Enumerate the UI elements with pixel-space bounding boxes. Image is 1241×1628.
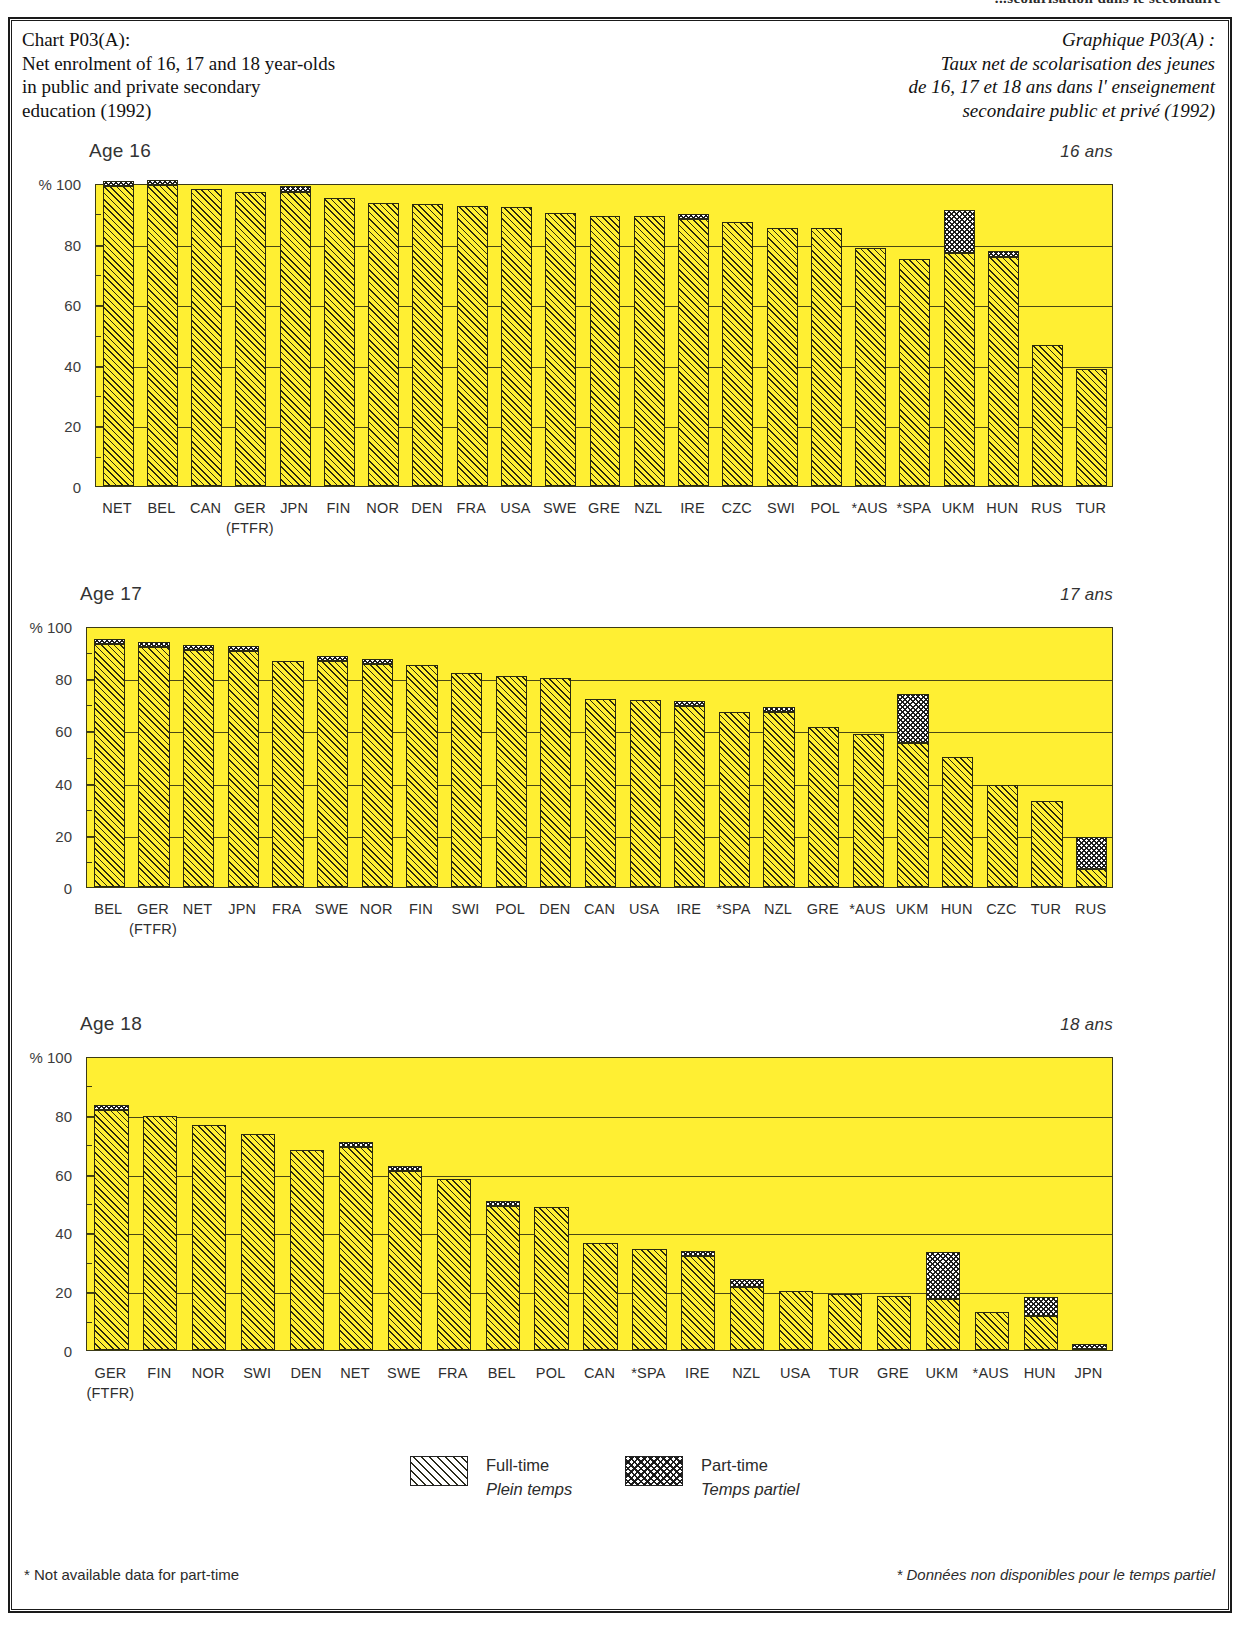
bar-segment-fulltime (926, 1299, 960, 1350)
bar-segment-fulltime (437, 1179, 471, 1350)
x-axis-label-GER: GER (137, 901, 169, 917)
x-axis-label-NET: NET (340, 1365, 370, 1381)
y-axis-label-80: 80 (0, 236, 81, 253)
running-header: ...scolarisation dans le secondaire (0, 0, 1241, 12)
footnote-english: * Not available data for part-time (24, 1566, 239, 1583)
title-en-line-1: Chart P03(A): (22, 28, 582, 52)
bar-NOR-age17 (362, 660, 393, 887)
y-axis-label-60: 60 (0, 723, 72, 740)
bar-segment-parttime (763, 707, 794, 712)
x-axis-label-UKM: UKM (896, 901, 929, 917)
bar-CAN-age18 (583, 1243, 617, 1350)
bar-segment-fulltime (811, 228, 842, 486)
bar-segment-fulltime (590, 216, 621, 486)
y-tick-minor-90 (86, 653, 92, 654)
x-axis-label-SPA: *SPA (631, 1365, 665, 1381)
legend-parttime-en: Part-time (701, 1456, 768, 1475)
y-axis-label-100: % 100 (0, 619, 72, 636)
bar-segment-fulltime (899, 259, 930, 486)
x-axis-label-CAN: CAN (190, 500, 221, 516)
bar-segment-fulltime (192, 1125, 226, 1350)
x-axis-label-NET: NET (102, 500, 132, 516)
y-tick-80 (86, 679, 95, 680)
bar-segment-fulltime (339, 1147, 373, 1350)
panel-title-fr-17: 17 ans (1060, 585, 1113, 605)
y-axis-label-40: 40 (0, 775, 72, 792)
y-axis-label-100: % 100 (0, 176, 81, 193)
y-tick-40 (86, 1233, 95, 1234)
x-axis-sublabel-GER: (FTFR) (226, 520, 274, 536)
x-axis-label-IRE: IRE (680, 500, 705, 516)
x-axis-sublabel-GER: (FTFR) (129, 921, 177, 937)
bar-segment-fulltime (388, 1171, 422, 1350)
bar-GRE-age16 (590, 216, 621, 486)
bar-segment-parttime (362, 659, 393, 664)
bar-BEL-age17 (94, 639, 125, 887)
bar-segment-fulltime (767, 228, 798, 486)
x-axis-label-IRE: IRE (685, 1365, 710, 1381)
y-tick-20 (86, 836, 95, 837)
bar-segment-fulltime (451, 673, 482, 887)
x-axis-label-SWI: SWI (452, 901, 480, 917)
x-axis-label-GRE: GRE (877, 1365, 909, 1381)
panel-title-18: Age 18 (80, 1013, 142, 1035)
x-axis-label-DEN: DEN (539, 901, 570, 917)
bar-segment-parttime (339, 1142, 373, 1147)
title-fr-line-4: secondaire public et privé (1992) (655, 99, 1215, 123)
legend-parttime-fr: Temps partiel (701, 1480, 799, 1499)
x-axis-label-SWI: SWI (767, 500, 795, 516)
bar-NOR-age16 (368, 203, 399, 486)
bar-segment-fulltime (779, 1291, 813, 1350)
bar-SWE-age17 (317, 657, 348, 887)
bar-segment-fulltime (722, 222, 753, 486)
bar-GER-age16 (235, 192, 266, 486)
y-tick-100 (86, 627, 95, 628)
y-axis-label-20: 20 (0, 827, 72, 844)
y-axis-label-80: 80 (0, 1107, 72, 1124)
bar-segment-fulltime (763, 712, 794, 887)
bar-segment-fulltime (457, 206, 488, 486)
bar-segment-fulltime (534, 1207, 568, 1350)
y-tick-minor-70 (95, 275, 101, 276)
bar-segment-fulltime (944, 253, 975, 486)
x-axis-label-JPN: JPN (280, 500, 308, 516)
x-axis-label-POL: POL (810, 500, 840, 516)
bar-segment-fulltime (362, 664, 393, 887)
bar-segment-fulltime (630, 700, 661, 887)
y-tick-minor-30 (95, 396, 101, 397)
title-fr-line-2: Taux net de scolarisation des jeunes (655, 52, 1215, 76)
bar-segment-fulltime (94, 1110, 128, 1350)
bar-NZL-age17 (763, 710, 794, 887)
gridline-80 (87, 1117, 1112, 1118)
bar-segment-fulltime (634, 216, 665, 486)
y-tick-20 (86, 1292, 95, 1293)
bar-segment-parttime (897, 694, 928, 744)
bar-segment-parttime (1076, 837, 1107, 868)
x-axis-label-FRA: FRA (438, 1365, 468, 1381)
x-axis-label-FIN: FIN (409, 901, 433, 917)
x-axis-label-FIN: FIN (326, 500, 350, 516)
bar-BEL-age18 (486, 1203, 520, 1350)
bar-AUS-age17 (853, 734, 884, 887)
legend-fulltime-fr: Plein temps (486, 1480, 572, 1499)
bar-JPN-age17 (228, 646, 259, 887)
bar-USA-age18 (779, 1291, 813, 1350)
bar-segment-fulltime (730, 1287, 764, 1350)
bar-NET-age17 (183, 646, 214, 887)
y-axis-label-0: 0 (0, 479, 81, 496)
bar-segment-fulltime (585, 699, 616, 887)
plot-area-age-17 (86, 627, 1113, 888)
x-axis-label-GER: GER (234, 500, 266, 516)
x-axis-label-TUR: TUR (1076, 500, 1106, 516)
y-tick-minor-30 (86, 1263, 92, 1264)
bar-NZL-age18 (730, 1279, 764, 1350)
y-tick-20 (95, 426, 104, 427)
bar-DEN-age17 (540, 678, 571, 887)
bar-segment-fulltime (988, 257, 1019, 486)
chart-page: ...scolarisation dans le secondaire Char… (0, 0, 1241, 1628)
x-axis-label-SWE: SWE (387, 1365, 421, 1381)
bar-CAN-age17 (585, 699, 616, 887)
bar-BEL-age16 (147, 180, 178, 486)
x-axis-label-BEL: BEL (488, 1365, 516, 1381)
x-axis-label-USA: USA (780, 1365, 810, 1381)
